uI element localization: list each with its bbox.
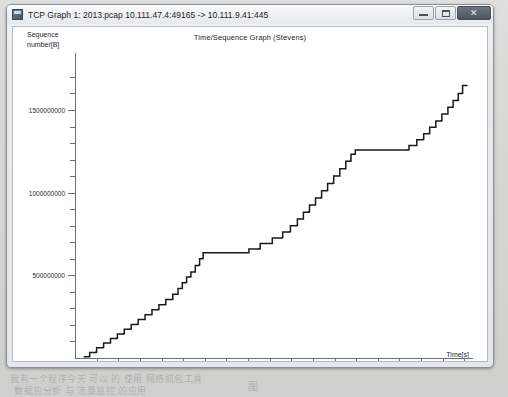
series-path <box>84 85 467 357</box>
maximize-icon <box>442 10 450 17</box>
graph-client-area: Time/Sequence Graph (Stevens) Sequence n… <box>12 26 488 362</box>
sequence-step-line <box>13 27 487 361</box>
close-button[interactable]: ✕ <box>457 6 491 20</box>
minimize-icon <box>419 14 428 16</box>
wireshark-icon <box>12 9 23 20</box>
minimize-button[interactable] <box>413 6 434 20</box>
window-controls[interactable]: ✕ <box>412 6 491 20</box>
window-titlebar[interactable]: TCP Graph 1: 2013.pcap 10.111.47.4:49165… <box>7 5 493 24</box>
window-title: TCP Graph 1: 2013.pcap 10.111.47.4:49165… <box>28 10 268 20</box>
plot-area: Time/Sequence Graph (Stevens) Sequence n… <box>13 27 487 361</box>
tcp-graph-window[interactable]: TCP Graph 1: 2013.pcap 10.111.47.4:49165… <box>6 4 494 368</box>
maximize-button[interactable] <box>435 6 456 20</box>
background-ghost-text-2: 数据包分析 与 流量监控 的应用 <box>14 384 147 397</box>
close-icon: ✕ <box>470 9 478 18</box>
background-ghost-text-4: 图 <box>248 378 259 393</box>
